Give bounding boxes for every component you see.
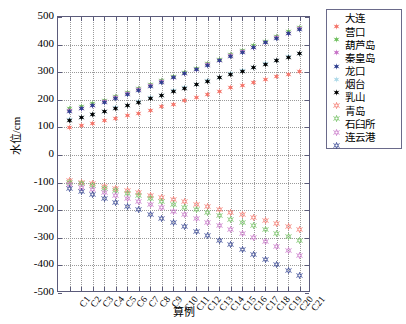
legend-label: 青岛: [345, 107, 365, 118]
data-point: [204, 232, 211, 239]
x-axis-title: 算例: [0, 303, 368, 319]
data-point: [170, 219, 177, 226]
y-axis-tick-label: 500: [14, 10, 54, 21]
data-point: [101, 195, 108, 202]
data-point: [285, 267, 292, 274]
legend-item-8[interactable]: 青岛: [330, 105, 399, 118]
data-point: [227, 241, 234, 248]
y-axis-tick-label: -100: [14, 176, 54, 187]
y-axis-tick-label: 400: [14, 38, 54, 49]
legend-marker-icon: [330, 92, 344, 105]
y-axis-tick-label: -200: [14, 203, 54, 214]
data-point: [273, 261, 280, 268]
legend-marker-icon: [330, 66, 344, 79]
y-axis-tick: [58, 293, 62, 294]
y-axis-tick-label: 100: [14, 120, 54, 131]
legend-item-1[interactable]: 大连: [330, 13, 399, 26]
data-point: [112, 199, 119, 206]
legend: 大连营口葫芦岛秦皇岛龙口烟台乳山青岛石臼所连云港: [326, 9, 402, 149]
legend-item-10[interactable]: 连云港: [330, 132, 399, 145]
y-axis-tick-label: 200: [14, 93, 54, 104]
legend-marker-icon: [330, 119, 344, 132]
legend-marker-icon: [330, 26, 344, 39]
y-axis-tick-label: -500: [14, 286, 54, 297]
chart-figure: 水位/cm -500-400-300-200-10001002003004005…: [0, 0, 406, 324]
legend-item-2[interactable]: 营口: [330, 26, 399, 39]
legend-item-7[interactable]: 乳山: [330, 92, 399, 105]
legend-marker-icon: [330, 132, 344, 145]
series-10: [58, 17, 309, 291]
y-axis-tick-label: -300: [14, 231, 54, 242]
legend-item-9[interactable]: 石臼所: [330, 119, 399, 132]
legend-item-5[interactable]: 龙口: [330, 66, 399, 79]
data-point: [135, 206, 142, 213]
legend-marker-icon: [330, 105, 344, 118]
data-point: [78, 188, 85, 195]
legend-label: 大连: [345, 14, 365, 25]
legend-marker-icon: [330, 13, 344, 26]
legend-label: 秦皇岛: [345, 54, 375, 65]
data-point: [181, 223, 188, 230]
legend-label: 营口: [345, 28, 365, 39]
data-point: [66, 185, 73, 192]
legend-label: 烟台: [345, 80, 365, 91]
data-point: [147, 211, 154, 218]
y-axis-tick-label: 0: [14, 148, 54, 159]
plot-area: [57, 16, 310, 292]
y-axis-tick-label: 300: [14, 65, 54, 76]
legend-label: 连云港: [345, 133, 375, 144]
data-point: [124, 203, 131, 210]
data-point: [216, 237, 223, 244]
legend-label: 石臼所: [345, 120, 375, 131]
legend-item-4[interactable]: 秦皇岛: [330, 53, 399, 66]
data-point: [89, 191, 96, 198]
data-series-layer: [58, 17, 309, 291]
data-point: [158, 215, 165, 222]
y-axis-tick-label: -400: [14, 258, 54, 269]
legend-marker-icon: [330, 53, 344, 66]
data-point: [262, 256, 269, 263]
data-point: [296, 272, 303, 279]
data-point: [250, 251, 257, 258]
data-point: [193, 228, 200, 235]
legend-marker-icon: [330, 39, 344, 52]
legend-label: 乳山: [345, 93, 365, 104]
legend-item-6[interactable]: 烟台: [330, 79, 399, 92]
data-point: [239, 246, 246, 253]
legend-item-3[interactable]: 葫芦岛: [330, 39, 399, 52]
legend-label: 龙口: [345, 67, 365, 78]
legend-label: 葫芦岛: [345, 41, 375, 52]
legend-marker-icon: [330, 79, 344, 92]
